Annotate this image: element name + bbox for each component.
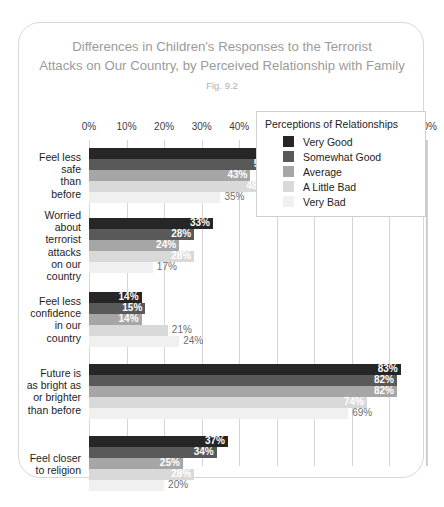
category-label-line: Worried xyxy=(19,209,81,221)
legend-swatch-icon xyxy=(283,166,294,177)
bar-row: 24% xyxy=(89,240,427,251)
bar xyxy=(89,192,220,203)
chart-title-line-2: Attacks on Our Country, by Perceived Rel… xyxy=(29,56,415,75)
x-tick-label: 40% xyxy=(229,121,249,132)
bar-value-label: 14% xyxy=(114,313,139,325)
category-label-line: country xyxy=(19,270,81,282)
bar-group: 14%15%14%21%24% xyxy=(89,292,427,347)
bar-row: 69% xyxy=(89,408,427,419)
bar-row: 28% xyxy=(89,469,427,480)
legend-item-label: Very Good xyxy=(303,136,353,148)
legend-item-label: A Little Bad xyxy=(303,181,356,193)
legend-item-label: Somewhat Good xyxy=(303,151,381,163)
category-label-line: confidence xyxy=(19,307,81,319)
category-label: Feel closerto religion xyxy=(19,452,81,476)
bar-row: 33% xyxy=(89,218,427,229)
gridline xyxy=(427,140,428,466)
chart-title-line-1: Differences in Children's Responses to t… xyxy=(29,37,415,56)
figure-label: Fig. 9.2 xyxy=(29,78,415,94)
bar-row: 74% xyxy=(89,397,427,408)
bar-row: 15% xyxy=(89,303,427,314)
bar-value-label: 69% xyxy=(352,407,372,419)
bar-group: 83%82%82%74%69% xyxy=(89,364,427,419)
legend-item[interactable]: A Little Bad xyxy=(265,179,417,194)
category-label-line: Feel closer xyxy=(19,452,81,464)
category-label: Feel lesssafethanbefore xyxy=(19,151,81,200)
category-label-line: than xyxy=(19,175,81,187)
category-label-line: safe xyxy=(19,163,81,175)
bar-row: 37% xyxy=(89,436,427,447)
bar-row: 34% xyxy=(89,447,427,458)
category-label-line: terrorist xyxy=(19,233,81,245)
legend-item[interactable]: Somewhat Good xyxy=(265,149,417,164)
bar-row: 14% xyxy=(89,314,427,325)
bar-row: 28% xyxy=(89,229,427,240)
category-label-line: to religion xyxy=(19,464,81,476)
category-label-line: than before xyxy=(19,404,81,416)
category-label: Feel lessconfidencein ourcountry xyxy=(19,295,81,344)
chart-title-block: Differences in Children's Responses to t… xyxy=(29,37,415,94)
bar-group: 33%28%24%28%17% xyxy=(89,218,427,273)
x-tick-label: 30% xyxy=(192,121,212,132)
bar xyxy=(89,336,179,347)
bar-value-label: 35% xyxy=(224,191,244,203)
category-label-line: attacks xyxy=(19,246,81,258)
legend-swatch-icon xyxy=(283,181,294,192)
legend-swatch-icon xyxy=(283,196,294,207)
bar-value-label: 24% xyxy=(183,335,203,347)
bar xyxy=(89,480,164,491)
chart-card: Differences in Children's Responses to t… xyxy=(18,22,424,478)
category-axis-labels: Feel lesssafethanbeforeWorriedaboutterro… xyxy=(19,121,87,466)
category-label: Worriedaboutterroristattackson ourcountr… xyxy=(19,209,81,282)
category-label-line: before xyxy=(19,188,81,200)
legend: Perceptions of Relationships Very GoodSo… xyxy=(256,111,426,217)
bar-value-label: 17% xyxy=(157,261,177,273)
legend-item[interactable]: Very Bad xyxy=(265,194,417,209)
bar-value-label: 20% xyxy=(168,479,188,491)
bar xyxy=(89,397,367,408)
bar-row: 21% xyxy=(89,325,427,336)
bar-group: 37%34%25%28%20% xyxy=(89,436,427,491)
category-label-line: on our xyxy=(19,258,81,270)
legend-item[interactable]: Average xyxy=(265,164,417,179)
bar-row: 24% xyxy=(89,336,427,347)
bar-row: 25% xyxy=(89,458,427,469)
bar xyxy=(89,262,153,273)
category-label-line: Feel less xyxy=(19,151,81,163)
bar-row: 82% xyxy=(89,386,427,397)
x-tick-label: 0% xyxy=(82,121,96,132)
category-label-line: country xyxy=(19,332,81,344)
legend-title: Perceptions of Relationships xyxy=(265,118,417,130)
category-label: Future isas bright asor brighterthan bef… xyxy=(19,367,81,416)
bar xyxy=(89,364,401,375)
category-label-line: in our xyxy=(19,319,81,331)
x-tick-label: 10% xyxy=(117,121,137,132)
legend-items: Very GoodSomewhat GoodAverageA Little Ba… xyxy=(265,134,417,209)
bar xyxy=(89,408,348,419)
bar-row: 28% xyxy=(89,251,427,262)
bar-row: 17% xyxy=(89,262,427,273)
legend-item[interactable]: Very Good xyxy=(265,134,417,149)
category-label-line: Feel less xyxy=(19,295,81,307)
category-label-line: as bright as xyxy=(19,379,81,391)
category-label-line: or brighter xyxy=(19,391,81,403)
legend-swatch-icon xyxy=(283,151,294,162)
bar-value-label: 82% xyxy=(369,385,394,397)
category-label-line: about xyxy=(19,221,81,233)
legend-item-label: Average xyxy=(303,166,342,178)
bar-row: 20% xyxy=(89,480,427,491)
x-tick-label: 20% xyxy=(154,121,174,132)
bar-value-label: 34% xyxy=(189,446,214,458)
bar xyxy=(89,325,168,336)
legend-swatch-icon xyxy=(283,136,294,147)
category-label-line: Future is xyxy=(19,367,81,379)
bar xyxy=(89,375,397,386)
legend-item-label: Very Bad xyxy=(303,196,346,208)
